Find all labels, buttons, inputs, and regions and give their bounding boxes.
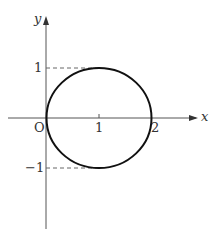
diagram-canvas: y x O 1 2 1 −1 [0, 0, 212, 229]
x-axis-arrow-icon [189, 115, 198, 121]
y-tick-label-1: 1 [34, 61, 42, 74]
origin-label: O [34, 121, 45, 134]
y-tick-label-neg1: −1 [25, 161, 44, 174]
x-axis-label: x [201, 110, 208, 123]
x-tick-label-2: 2 [151, 121, 159, 134]
y-axis-arrow-icon [43, 16, 49, 25]
plot-svg [0, 0, 212, 229]
y-axis-label: y [34, 12, 41, 25]
x-tick-label-1: 1 [95, 121, 103, 134]
